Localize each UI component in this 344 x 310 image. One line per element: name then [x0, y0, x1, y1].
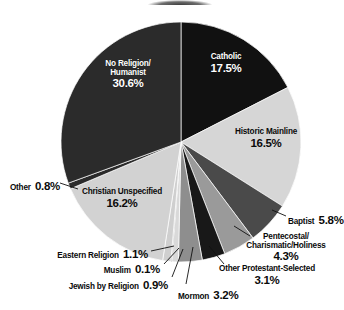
- slice-label-christian-unspecified: Christian Unspecified 16.2%: [70, 188, 174, 209]
- slice-label-other-protestant: Other Protestant-Selected 3.1%: [202, 265, 332, 286]
- slice-label-mormon-name: Mormon: [178, 292, 209, 301]
- slice-label-jewish-name: Jewish by Religion: [69, 282, 139, 291]
- slice-label-christian-unspecified-name: Christian Unspecified: [70, 188, 174, 197]
- slice-label-other-percent: 0.8%: [35, 180, 60, 192]
- slice-label-no-religion: No Religion/ Humanist 30.6%: [78, 60, 178, 90]
- slice-label-no-religion-name-line2: Humanist: [78, 69, 178, 78]
- slice-label-christian-unspecified-percent: 16.2%: [70, 197, 174, 209]
- slice-label-historic-mainline: Historic Mainline 16.5%: [218, 128, 314, 149]
- slice-label-jewish: Jewish by Religion 0.9%: [20, 276, 168, 293]
- slice-label-pentecostal-name-line2: Charismatic/Holiness: [236, 242, 336, 251]
- slice-label-other-name: Other: [10, 183, 31, 192]
- slice-label-baptist-name: Baptist: [288, 217, 314, 226]
- slice-label-historic-mainline-name: Historic Mainline: [218, 128, 314, 137]
- slice-label-jewish-percent: 0.9%: [143, 279, 168, 291]
- slice-label-mormon-percent: 3.2%: [213, 289, 238, 301]
- slice-label-muslim-percent: 0.1%: [135, 263, 160, 275]
- slice-label-eastern: Eastern Religion 1.1%: [10, 245, 148, 262]
- slice-label-no-religion-percent: 30.6%: [78, 77, 178, 89]
- slice-label-historic-mainline-percent: 16.5%: [218, 137, 314, 149]
- slice-label-catholic-percent: 17.5%: [186, 62, 266, 74]
- slice-label-mormon: Mormon 3.2%: [178, 286, 238, 303]
- slice-label-eastern-percent: 1.1%: [123, 248, 148, 260]
- slice-label-other: Other 0.8%: [0, 177, 60, 194]
- slice-label-catholic-name: Catholic: [186, 53, 266, 62]
- slice-label-baptist: Baptist 5.8%: [288, 211, 344, 228]
- slice-label-muslim: Muslim 0.1%: [20, 260, 160, 277]
- slice-label-pentecostal: Pentecostal/ Charismatic/Holiness 4.3%: [236, 233, 336, 263]
- slice-label-eastern-name: Eastern Religion: [57, 251, 118, 260]
- slice-label-pentecostal-percent: 4.3%: [236, 250, 336, 262]
- slice-label-other-protestant-percent: 3.1%: [202, 274, 332, 286]
- slice-label-other-protestant-name: Other Protestant-Selected: [202, 265, 332, 274]
- slice-label-catholic: Catholic 17.5%: [186, 53, 266, 74]
- slice-label-muslim-name: Muslim: [104, 266, 131, 275]
- slice-label-baptist-percent: 5.8%: [319, 214, 344, 226]
